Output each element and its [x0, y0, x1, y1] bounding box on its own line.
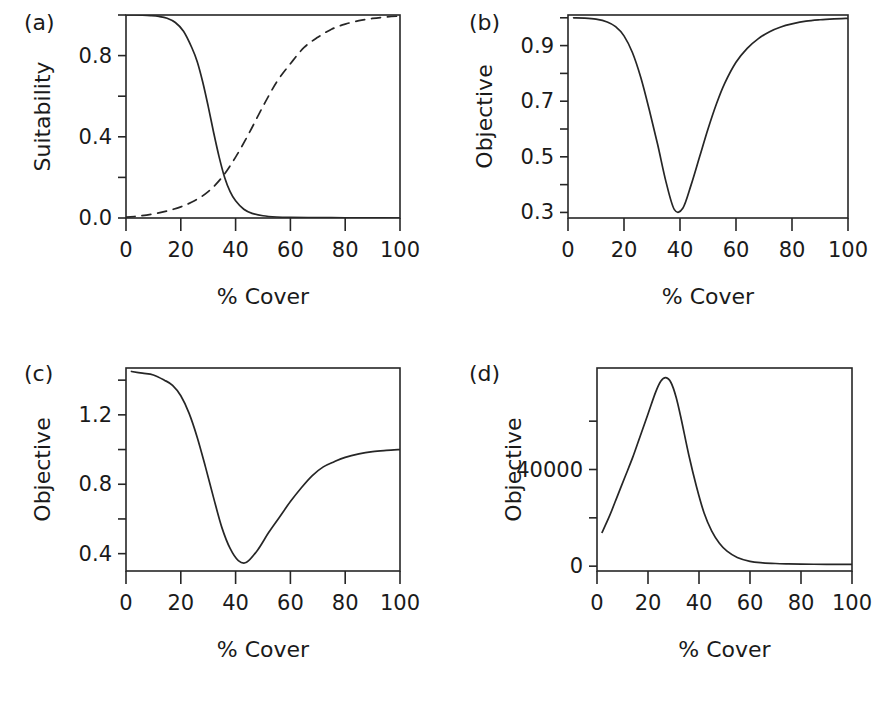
- y-tick-label: 0.8: [79, 472, 112, 496]
- plot-frame: [597, 368, 852, 571]
- y-tick-label: 40000: [516, 458, 583, 482]
- x-axis-title: % Cover: [662, 284, 755, 309]
- figure-four-panel-curves: (a)0.00.40.8020406080100% CoverSuitabili…: [0, 0, 891, 703]
- x-tick-label: 60: [723, 238, 750, 262]
- panel-a: (a)0.00.40.8020406080100% CoverSuitabili…: [0, 0, 446, 352]
- x-tick-label: 40: [686, 591, 713, 615]
- x-tick-label: 80: [788, 591, 815, 615]
- panel-label: (a): [24, 10, 55, 35]
- x-tick-label: 60: [277, 238, 304, 262]
- data-curve: [126, 16, 400, 217]
- x-tick-label: 100: [380, 238, 420, 262]
- x-tick-label: 60: [737, 591, 764, 615]
- y-tick-label: 0.4: [79, 542, 112, 566]
- y-tick-label: 0.4: [79, 125, 112, 149]
- y-tick-label: 0.0: [79, 206, 112, 230]
- x-tick-label: 40: [222, 591, 249, 615]
- x-tick-label: 100: [380, 591, 420, 615]
- data-curve: [574, 18, 848, 212]
- x-tick-label: 80: [332, 591, 359, 615]
- panel-b: (b)0.30.50.70.9020406080100% CoverObject…: [445, 0, 891, 352]
- x-tick-label: 60: [277, 591, 304, 615]
- panel-label: (d): [469, 361, 500, 386]
- y-axis-title: Objective: [501, 417, 526, 521]
- y-tick-label: 0.3: [521, 200, 554, 224]
- x-tick-label: 20: [167, 238, 194, 262]
- panel-label: (b): [469, 10, 500, 35]
- plot-frame: [126, 15, 400, 218]
- x-tick-label: 20: [167, 591, 194, 615]
- y-tick-label: 0: [570, 554, 583, 578]
- y-axis-title: Objective: [30, 417, 55, 521]
- x-tick-label: 20: [611, 238, 638, 262]
- x-tick-label: 100: [832, 591, 872, 615]
- y-axis-title: Objective: [472, 64, 497, 168]
- panel-d: (d)040000020406080100% CoverObjective: [445, 351, 891, 703]
- panel-label: (c): [24, 361, 53, 386]
- data-curve: [602, 378, 852, 565]
- x-tick-label: 0: [119, 591, 132, 615]
- x-tick-label: 0: [590, 591, 603, 615]
- y-axis-title: Suitability: [30, 61, 55, 171]
- x-axis-title: % Cover: [217, 637, 310, 662]
- y-tick-label: 0.5: [521, 145, 554, 169]
- x-tick-label: 100: [828, 238, 868, 262]
- x-tick-label: 0: [119, 238, 132, 262]
- x-tick-label: 40: [667, 238, 694, 262]
- x-tick-label: 40: [222, 238, 249, 262]
- x-tick-label: 20: [635, 591, 662, 615]
- x-tick-label: 80: [779, 238, 806, 262]
- y-tick-label: 0.8: [79, 44, 112, 68]
- data-curve: [126, 15, 400, 218]
- panel-c: (c)0.40.81.2020406080100% CoverObjective: [0, 351, 446, 703]
- y-tick-label: 0.7: [521, 89, 554, 113]
- x-tick-label: 80: [332, 238, 359, 262]
- x-axis-title: % Cover: [678, 637, 771, 662]
- y-tick-label: 0.9: [521, 34, 554, 58]
- x-tick-label: 0: [561, 238, 574, 262]
- x-axis-title: % Cover: [217, 284, 310, 309]
- data-curve: [131, 371, 400, 563]
- plot-frame: [568, 15, 848, 218]
- y-tick-label: 1.2: [79, 403, 112, 427]
